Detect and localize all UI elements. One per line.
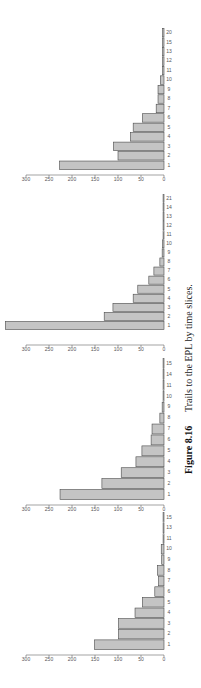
caption-label: Figure 8.16 <box>183 426 194 474</box>
figure-page: 0501001502002503001234567891011131505010… <box>0 0 201 688</box>
figure-caption: Figure 8.16 Trails to the EPL by time sl… <box>0 0 201 688</box>
caption-text: Trails to the EPL by time slices. <box>183 284 194 412</box>
